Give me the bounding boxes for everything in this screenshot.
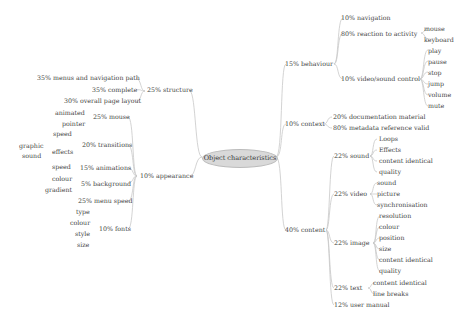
mind-map: Object characteristics 25% structure 35%… bbox=[0, 0, 472, 324]
node-appearance[interactable]: 10% appearance bbox=[140, 172, 193, 180]
node-sound[interactable]: sound bbox=[22, 152, 41, 160]
node-sound-quality[interactable]: quality bbox=[379, 168, 401, 176]
node-colour[interactable]: colour bbox=[52, 175, 72, 183]
node-documentation[interactable]: 20% documentation material bbox=[333, 113, 426, 121]
node-reaction[interactable]: 80% reaction to activity bbox=[341, 30, 417, 38]
node-image-size[interactable]: size bbox=[379, 245, 391, 253]
node-background[interactable]: 5% background bbox=[81, 180, 131, 188]
node-animations[interactable]: 15% animations bbox=[80, 164, 131, 172]
node-video-sound-control[interactable]: 10% video/sound control bbox=[341, 75, 420, 83]
node-context[interactable]: 10% context bbox=[285, 120, 325, 128]
node-reaction-mouse[interactable]: mouse bbox=[424, 25, 445, 33]
node-content-text[interactable]: 22% text bbox=[334, 284, 362, 292]
node-fonts[interactable]: 10% fonts bbox=[99, 225, 131, 233]
node-animations-speed[interactable]: speed bbox=[52, 163, 71, 171]
node-jump[interactable]: jump bbox=[428, 80, 444, 88]
node-sound-effects[interactable]: Effects bbox=[379, 146, 401, 154]
node-play[interactable]: play bbox=[428, 47, 441, 55]
node-pause[interactable]: pause bbox=[428, 58, 447, 66]
node-menus-navigation[interactable]: 35% menus and navigation path bbox=[37, 74, 140, 82]
node-video-sound[interactable]: sound bbox=[377, 179, 396, 187]
node-volume[interactable]: volume bbox=[428, 91, 451, 99]
node-mouse[interactable]: 25% mouse bbox=[93, 113, 130, 121]
node-synchronisation[interactable]: synchronisation bbox=[377, 201, 428, 209]
node-transitions[interactable]: 20% transitions bbox=[82, 141, 132, 149]
node-line-breaks[interactable]: line breaks bbox=[373, 290, 408, 298]
node-resolution[interactable]: resolution bbox=[379, 212, 411, 220]
root-node[interactable]: Object characteristics bbox=[202, 149, 278, 168]
node-stop[interactable]: stop bbox=[428, 69, 442, 77]
node-behaviour[interactable]: 15% behaviour bbox=[285, 60, 333, 68]
node-structure[interactable]: 25% structure bbox=[147, 86, 193, 94]
node-image-quality[interactable]: quality bbox=[379, 267, 401, 275]
node-gradient[interactable]: gradient bbox=[45, 186, 72, 194]
node-animated[interactable]: animated bbox=[55, 109, 85, 117]
node-overall-layout[interactable]: 30% overall page layout bbox=[64, 97, 141, 105]
node-effects[interactable]: effects bbox=[52, 148, 73, 156]
node-content-sound[interactable]: 22% sound bbox=[334, 152, 369, 160]
node-loops[interactable]: Loops bbox=[379, 135, 398, 143]
node-navigation[interactable]: 10% navigation bbox=[341, 14, 391, 22]
node-content-video[interactable]: 22% video bbox=[334, 190, 367, 198]
node-graphic[interactable]: graphic bbox=[19, 142, 43, 150]
node-menu-speed[interactable]: 25% menu speed bbox=[78, 197, 133, 205]
node-position[interactable]: position bbox=[379, 234, 404, 242]
node-style[interactable]: style bbox=[75, 230, 90, 238]
node-text-content-identical[interactable]: content identical bbox=[373, 279, 427, 287]
node-image-content-identical[interactable]: content identical bbox=[379, 256, 433, 264]
node-transitions-speed[interactable]: speed bbox=[53, 130, 72, 138]
node-font-colour[interactable]: colour bbox=[70, 219, 90, 227]
node-keyboard[interactable]: keyboard bbox=[424, 36, 454, 44]
node-sound-content-identical[interactable]: content identical bbox=[379, 157, 433, 165]
node-content[interactable]: 40% content bbox=[285, 226, 325, 234]
node-size[interactable]: size bbox=[77, 241, 89, 249]
node-complete[interactable]: 35% complete bbox=[92, 86, 137, 94]
node-type[interactable]: type bbox=[76, 208, 90, 216]
node-pointer[interactable]: pointer bbox=[62, 120, 85, 128]
node-user-manual[interactable]: 12% user manual bbox=[334, 301, 390, 309]
node-metadata[interactable]: 80% metadata reference valid bbox=[333, 124, 429, 132]
node-content-image[interactable]: 22% image bbox=[334, 239, 370, 247]
node-picture[interactable]: picture bbox=[377, 190, 400, 198]
node-mute[interactable]: mute bbox=[428, 102, 444, 110]
node-image-colour[interactable]: colour bbox=[379, 223, 399, 231]
